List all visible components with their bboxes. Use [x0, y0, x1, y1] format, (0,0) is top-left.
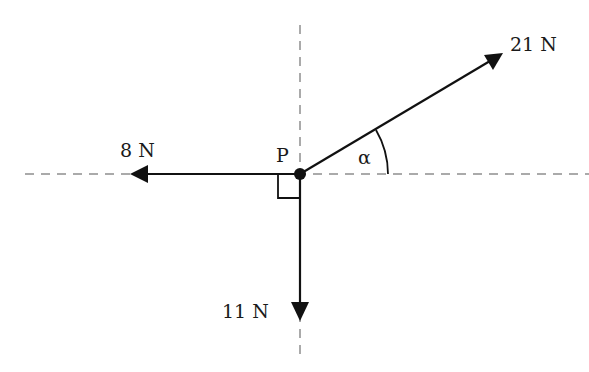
diagram-canvas [0, 0, 589, 372]
point-p-label: P [276, 146, 289, 165]
force-8n-label: 8 N [120, 141, 155, 160]
force-11n-arrowhead-icon [291, 302, 309, 321]
force-diagram: 21 N 8 N 11 N P α [0, 0, 589, 372]
point-p-dot [294, 168, 306, 180]
angle-alpha-arc [376, 130, 388, 174]
force-21n-label: 21 N [510, 35, 557, 54]
angle-alpha-label: α [358, 148, 371, 167]
force-21n-arrowhead-icon [484, 53, 503, 70]
force-11n-label: 11 N [222, 302, 269, 321]
force-8n-arrowhead-icon [130, 165, 148, 183]
force-21n-line [300, 61, 490, 174]
